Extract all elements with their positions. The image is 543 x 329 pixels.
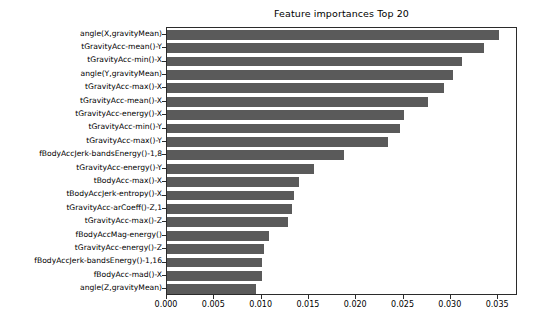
y-tick-mark [162, 101, 166, 102]
y-tick-label: tGravityAcc-energy()-Y [76, 164, 162, 172]
y-tick-label: angle(Y,gravityMean) [81, 70, 162, 78]
y-tick-label: angle(Z,gravityMean) [80, 284, 162, 292]
y-tick-mark [162, 87, 166, 88]
y-tick-mark [162, 34, 166, 35]
y-tick-mark [162, 262, 166, 263]
bar [167, 70, 453, 80]
x-tick-mark [497, 295, 498, 299]
bar [167, 164, 314, 174]
x-tick-label: 0.010 [249, 300, 272, 309]
y-tick-label: fBodyAcc-mad()-X [94, 271, 162, 279]
y-tick-mark [162, 154, 166, 155]
y-tick-mark [162, 114, 166, 115]
y-tick-mark [162, 208, 166, 209]
y-tick-mark [162, 248, 166, 249]
y-tick-label: tGravityAcc-max()-Z [85, 217, 162, 225]
y-tick-mark [162, 235, 166, 236]
bar [167, 244, 264, 254]
y-tick-label: fBodyAccJerk-bandsEnergy()-1,16 [34, 257, 162, 265]
y-tick-label: tGravityAcc-min()-X [87, 56, 162, 64]
y-tick-label: tGravityAcc-mean()-X [80, 97, 162, 105]
y-tick-label: fBodyAccJerk-bandsEnergy()-1,8 [39, 150, 162, 158]
x-tick-label: 0.005 [202, 300, 225, 309]
y-tick-label: fBodyAccMag-energy() [76, 231, 162, 239]
y-tick-label: tGravityAcc-max()-Y [86, 137, 162, 145]
bar [167, 97, 428, 107]
chart-title: Feature importances Top 20 [166, 8, 517, 19]
bars-layer [167, 28, 516, 294]
y-tick-label: tBodyAccJerk-entropy()-X [66, 190, 162, 198]
y-axis-labels: angle(X,gravityMean)tGravityAcc-mean()-Y… [0, 27, 162, 295]
bar [167, 83, 444, 93]
bar [167, 217, 288, 227]
x-tick-mark [450, 295, 451, 299]
x-tick-label: 0.025 [391, 300, 414, 309]
y-tick-mark [162, 195, 166, 196]
bar [167, 150, 344, 160]
bar [167, 43, 484, 53]
y-tick-label: angle(X,gravityMean) [80, 30, 162, 38]
x-axis-ticks: 0.0000.0050.0100.0150.0200.0250.0300.035 [166, 295, 517, 315]
x-tick-label: 0.015 [296, 300, 319, 309]
y-tick-mark [162, 61, 166, 62]
bar [167, 30, 499, 40]
y-tick-label: tGravityAcc-min()-Y [88, 123, 162, 131]
bar [167, 177, 299, 187]
bar [167, 124, 400, 134]
y-tick-label: tGravityAcc-energy()-X [75, 110, 162, 118]
x-tick-label: 0.035 [486, 300, 509, 309]
bar [167, 110, 404, 120]
bar [167, 57, 462, 67]
y-tick-label: tGravityAcc-max()-X [85, 83, 162, 91]
y-tick-mark [162, 221, 166, 222]
bar [167, 137, 388, 147]
x-tick-mark [261, 295, 262, 299]
x-tick-label: 0.000 [155, 300, 178, 309]
x-tick-label: 0.020 [344, 300, 367, 309]
bar [167, 191, 294, 201]
y-tick-mark [162, 275, 166, 276]
x-tick-mark [213, 295, 214, 299]
y-tick-label: tBodyAcc-max()-X [94, 177, 162, 185]
x-tick-mark [403, 295, 404, 299]
y-tick-mark [162, 168, 166, 169]
bar [167, 258, 262, 268]
y-tick-label: tGravityAcc-arCoeff()-Z,1 [66, 204, 162, 212]
x-tick-mark [355, 295, 356, 299]
bar [167, 204, 292, 214]
y-tick-mark [162, 181, 166, 182]
bar [167, 284, 256, 294]
y-tick-label: tGravityAcc-mean()-Y [81, 43, 162, 51]
y-tick-mark [162, 128, 166, 129]
y-tick-label: tGravityAcc-energy()-Z [75, 244, 162, 252]
x-tick-mark [166, 295, 167, 299]
y-tick-mark [162, 288, 166, 289]
y-tick-mark [162, 141, 166, 142]
figure-canvas: Feature importances Top 20 angle(X,gravi… [0, 0, 543, 329]
bar [167, 231, 269, 241]
x-tick-label: 0.030 [438, 300, 461, 309]
bar [167, 271, 262, 281]
y-tick-mark [162, 74, 166, 75]
x-tick-mark [308, 295, 309, 299]
plot-area [166, 27, 517, 295]
y-tick-mark [162, 47, 166, 48]
